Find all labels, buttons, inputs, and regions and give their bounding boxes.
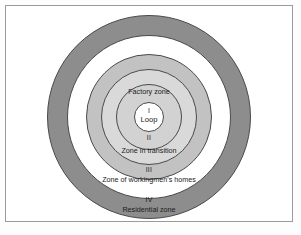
diagram-frame: Factory zone I Loop II Zone in transitio… [5, 5, 293, 222]
figure-root: Factory zone I Loop II Zone in transitio… [0, 0, 301, 235]
zone-circle-loop [134, 102, 164, 132]
